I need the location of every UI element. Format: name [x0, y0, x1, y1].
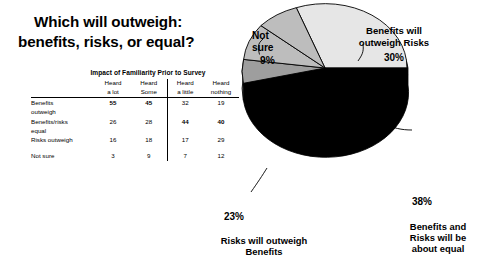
row-label-risks-outweigh: Risks outweigh: [31, 135, 95, 144]
pie-label-about-equal: 38% Benefits and Risks will be about equ…: [396, 185, 480, 254]
pie-label-not-sure-text: Not sure: [252, 30, 274, 53]
cell-r3-c1: 9: [131, 144, 167, 160]
cell-r3-c2: 7: [167, 144, 203, 160]
cell-r0-c2: 32: [167, 97, 203, 116]
pie-label-risks-outweigh-benefits-text: Risks will outweigh Benefits: [221, 235, 307, 257]
cell-r2-c3: 29: [203, 135, 239, 144]
table-row: Benefits/risks equal 26 28 44 40: [31, 117, 239, 136]
pie-label-about-equal-text: Benefits and Risks will be about equal: [410, 221, 466, 254]
cell-r1-c2: 44: [167, 117, 203, 136]
survey-table-caption: Impact of Familiarity Prior to Survey: [31, 69, 239, 76]
page-title: Which will outweigh: benefits, risks, or…: [18, 12, 250, 52]
cell-r2-c0: 16: [95, 135, 131, 144]
column-header-heard-a-little: Heard a little: [167, 79, 203, 97]
pie-label-not-sure-pct: 9%: [252, 54, 308, 67]
cell-r1-c0: 26: [95, 117, 131, 136]
cell-r0-c3: 19: [203, 97, 239, 116]
column-header-heard-a-lot: Heard a lot: [95, 79, 131, 97]
survey-table-block: Impact of Familiarity Prior to Survey He…: [31, 69, 239, 161]
pie-label-benefits-outweigh-risks: Benefits will outweigh Risks 30%: [332, 14, 456, 75]
cell-r3-c0: 3: [95, 144, 131, 160]
table-header-row: Heard a lot Heard Some Heard a little He…: [31, 79, 239, 97]
page-title-line-1: Which will outweigh:: [18, 12, 250, 32]
pie-label-benefits-outweigh-risks-pct: 30%: [332, 48, 456, 64]
row-label-benefits-risks-equal: Benefits/risks equal: [31, 117, 95, 136]
cell-r1-c3: 40: [203, 117, 239, 136]
column-header-heard-nothing: Heard nothing: [203, 79, 239, 97]
cell-r1-c1: 28: [131, 117, 167, 136]
column-header-heard-some: Heard Some: [131, 79, 167, 97]
pie-label-risks-outweigh-benefits-pct: 23%: [188, 211, 340, 224]
row-label-not-sure: Not sure: [31, 144, 95, 160]
cell-r2-c1: 18: [131, 135, 167, 144]
pie-label-about-equal-pct: 38%: [396, 196, 480, 210]
cell-r0-c1: 45: [131, 97, 167, 116]
survey-table: Heard a lot Heard Some Heard a little He…: [31, 79, 239, 161]
page-title-line-2: benefits, risks, or equal?: [18, 32, 250, 52]
table-row: Benefits outweigh 55 45 32 19: [31, 97, 239, 116]
cell-r3-c3: 12: [203, 144, 239, 160]
pie-label-benefits-outweigh-risks-text: Benefits will outweigh Risks: [359, 25, 429, 47]
table-corner-header: [31, 79, 95, 97]
table-row: Not sure 3 9 7 12: [31, 144, 239, 160]
row-label-benefits-outweigh: Benefits outweigh: [31, 97, 95, 116]
pie-label-not-sure: Not sure 9%: [252, 18, 308, 79]
pie-label-risks-outweigh-benefits: 23% Risks will outweigh Benefits: [188, 200, 340, 257]
table-row: Risks outweigh 16 18 17 29: [31, 135, 239, 144]
cell-r2-c2: 17: [167, 135, 203, 144]
leader-line-risks-outweigh-benefits: [251, 168, 267, 192]
cell-r0-c0: 55: [95, 97, 131, 116]
